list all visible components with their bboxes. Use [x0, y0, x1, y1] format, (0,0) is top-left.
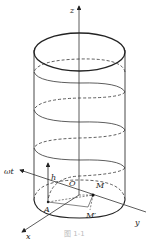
x-axis-label: x [26, 232, 31, 240]
cylinder-top-ellipse [34, 33, 125, 71]
a-label: A [43, 205, 50, 214]
cylinder-helix-diagram: z ωt x y h O [0, 0, 153, 240]
point-a [47, 201, 49, 203]
m-label: M [95, 181, 105, 190]
omega-t-axis [20, 170, 146, 212]
y-axis-label: y [134, 218, 140, 227]
h-label: h [51, 173, 56, 182]
point-m [91, 193, 94, 196]
x-axis [22, 195, 79, 232]
origin-label: O [69, 179, 76, 188]
omega-t-label: ωt [4, 167, 15, 176]
figure-caption: 图 1-1 [64, 230, 85, 238]
m-prime-label: M′ [85, 211, 96, 220]
base-construction-lines [48, 195, 93, 210]
z-axis-label: z [69, 6, 75, 15]
